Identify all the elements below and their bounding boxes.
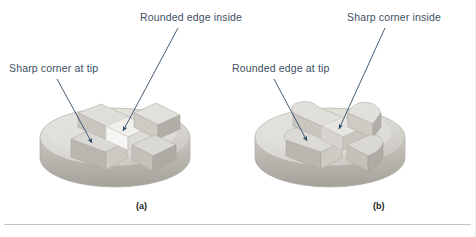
callout-label-sharp-corner-inside: Sharp corner inside bbox=[347, 11, 441, 23]
figure-container: Rounded edge inside Sharp corner at tip … bbox=[0, 0, 476, 237]
callout-label-rounded-edge-at-tip: Rounded edge at tip bbox=[232, 62, 329, 74]
callout-label-sharp-corner-at-tip: Sharp corner at tip bbox=[9, 62, 98, 74]
panel-caption-b: (b) bbox=[373, 201, 385, 211]
part-b-graphic bbox=[255, 102, 405, 187]
panel-caption-a: (a) bbox=[136, 201, 147, 211]
callout-label-rounded-edge-inside: Rounded edge inside bbox=[140, 11, 242, 23]
part-a-graphic bbox=[40, 103, 190, 187]
figure-divider-rule bbox=[4, 224, 471, 225]
